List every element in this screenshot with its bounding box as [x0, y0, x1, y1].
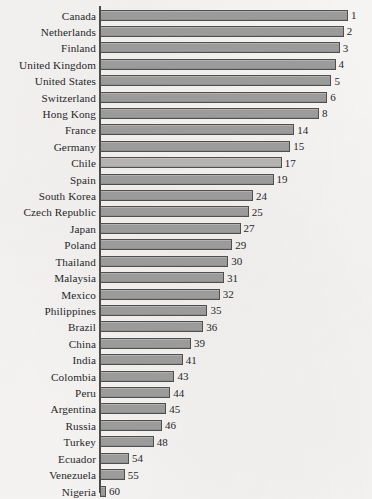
bar-group: 4	[100, 58, 344, 70]
bar-group: 43	[100, 370, 188, 382]
bar	[100, 42, 340, 53]
chart-row: Finland3	[0, 40, 372, 56]
bar-group: 2	[100, 25, 352, 37]
value-label: 41	[186, 354, 197, 366]
chart-row: Peru44	[0, 385, 372, 401]
bar	[100, 436, 154, 447]
chart-row: Spain19	[0, 172, 372, 188]
bar-group: 8	[100, 107, 328, 119]
value-label: 24	[256, 190, 267, 202]
bar	[100, 108, 319, 119]
bar	[100, 371, 174, 382]
value-label: 35	[210, 304, 221, 316]
chart-row: China39	[0, 336, 372, 352]
value-label: 17	[285, 157, 296, 169]
value-label: 5	[334, 75, 340, 87]
category-label: Thailand	[0, 256, 96, 268]
category-label: China	[0, 338, 96, 350]
value-label: 46	[165, 419, 176, 431]
chart-row: Venezuela55	[0, 467, 372, 483]
bar	[100, 453, 129, 464]
bar-group: 46	[100, 419, 176, 431]
category-label: Philippines	[0, 305, 96, 317]
chart-row: Netherlands2	[0, 24, 372, 40]
value-label: 19	[277, 173, 288, 185]
chart-row: United Kingdom4	[0, 57, 372, 73]
category-label: Finland	[0, 42, 96, 54]
bar-group: 14	[100, 124, 308, 136]
chart-row: Colombia43	[0, 369, 372, 385]
chart-row: Thailand30	[0, 254, 372, 270]
value-label: 3	[343, 42, 349, 54]
category-label: Canada	[0, 10, 96, 22]
category-label: Peru	[0, 387, 96, 399]
value-label: 6	[330, 91, 336, 103]
chart-row: France14	[0, 122, 372, 138]
bar-group: 6	[100, 91, 336, 103]
chart-row: Russia46	[0, 418, 372, 434]
chart-row: Switzerland6	[0, 90, 372, 106]
category-label: Czech Republic	[0, 206, 96, 218]
category-label: United States	[0, 75, 96, 87]
value-label: 15	[293, 140, 304, 152]
category-label: India	[0, 354, 96, 366]
chart-row: Poland29	[0, 237, 372, 253]
chart-row: Brazil36	[0, 319, 372, 335]
category-label: Japan	[0, 223, 96, 235]
bar-group: 41	[100, 354, 197, 366]
category-label: Spain	[0, 174, 96, 186]
value-label: 30	[231, 255, 242, 267]
bar	[100, 174, 274, 185]
chart-row: United States5	[0, 73, 372, 89]
chart-row: Nigeria60	[0, 484, 372, 499]
chart-row: Hong Kong8	[0, 106, 372, 122]
category-label: Venezuela	[0, 469, 96, 481]
bar-group: 36	[100, 321, 217, 333]
bar-group: 19	[100, 173, 288, 185]
value-label: 1	[351, 9, 357, 21]
bar	[100, 223, 241, 234]
chart-row: Ecuador54	[0, 451, 372, 467]
bar-group: 17	[100, 157, 296, 169]
bar	[100, 141, 290, 152]
bar-group: 15	[100, 140, 304, 152]
category-label: Argentina	[0, 403, 96, 415]
rank-bar-chart: Canada1Netherlands2Finland3United Kingdo…	[0, 0, 372, 499]
category-label: Brazil	[0, 321, 96, 333]
bar-group: 5	[100, 75, 340, 87]
category-label: Switzerland	[0, 92, 96, 104]
chart-row: Chile17	[0, 155, 372, 171]
bar	[100, 75, 331, 86]
bar-group: 24	[100, 190, 267, 202]
bar	[100, 92, 327, 103]
bar-group: 3	[100, 42, 348, 54]
bar	[100, 387, 170, 398]
bar	[100, 338, 191, 349]
bar-group: 55	[100, 469, 139, 481]
chart-row: South Korea24	[0, 188, 372, 204]
bar-group: 30	[100, 255, 242, 267]
bar	[100, 321, 203, 332]
bar-group: 27	[100, 222, 255, 234]
bar	[100, 124, 294, 135]
bar-group: 44	[100, 387, 184, 399]
bar	[100, 469, 125, 480]
chart-row: Argentina45	[0, 401, 372, 417]
bar-group: 39	[100, 337, 205, 349]
bar-group: 54	[100, 452, 143, 464]
bar	[100, 289, 220, 300]
category-label: Chile	[0, 157, 96, 169]
bar	[100, 59, 336, 70]
bar-group: 35	[100, 304, 221, 316]
value-label: 44	[173, 387, 184, 399]
bar	[100, 239, 232, 250]
bar-group: 48	[100, 436, 168, 448]
value-label: 27	[244, 222, 255, 234]
category-label: Poland	[0, 239, 96, 251]
value-label: 54	[132, 452, 143, 464]
bar	[100, 26, 344, 37]
bar-group: 45	[100, 403, 180, 415]
value-label: 36	[206, 321, 217, 333]
bar	[100, 305, 207, 316]
value-label: 60	[109, 485, 120, 497]
